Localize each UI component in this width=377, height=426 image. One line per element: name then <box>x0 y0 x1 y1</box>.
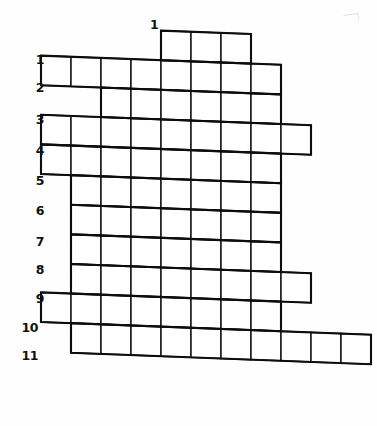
row-label-6: 6 <box>18 205 44 218</box>
grid-cell[interactable] <box>191 209 221 240</box>
row-label-5: 5 <box>18 175 44 188</box>
row-label-7: 7 <box>18 236 44 249</box>
crossword-grid[interactable] <box>0 0 377 426</box>
grid-cell[interactable] <box>191 269 221 300</box>
grid-cell[interactable] <box>221 181 251 212</box>
grid-cell[interactable] <box>191 61 221 92</box>
grid-cell[interactable] <box>41 144 71 175</box>
grid-cell[interactable] <box>251 64 281 95</box>
grid-cell[interactable] <box>131 266 161 297</box>
row-label-1: 1 <box>18 54 44 67</box>
grid-cell[interactable] <box>71 116 101 147</box>
row-label-8: 8 <box>18 264 44 277</box>
row-label-10: 10 <box>12 322 38 335</box>
grid-cell[interactable] <box>161 238 191 269</box>
grid-cell[interactable] <box>161 31 191 62</box>
grid-cell[interactable] <box>251 152 281 183</box>
grid-cell[interactable] <box>101 295 131 326</box>
grid-cell[interactable] <box>71 175 101 206</box>
grid-cell[interactable] <box>221 211 251 242</box>
grid-cell[interactable] <box>161 179 191 210</box>
grid-cell[interactable] <box>191 32 221 63</box>
grid-cell[interactable] <box>161 208 191 239</box>
grid-cell[interactable] <box>161 60 191 91</box>
grid-cell[interactable] <box>41 115 71 146</box>
grid-cell[interactable] <box>101 88 131 119</box>
grid-cell[interactable] <box>251 93 281 124</box>
grid-cell[interactable] <box>131 296 161 327</box>
column-label-1: 1 <box>150 19 159 32</box>
grid-cell[interactable] <box>221 122 251 153</box>
grid-cell[interactable] <box>221 92 251 123</box>
grid-cell[interactable] <box>131 177 161 208</box>
grid-cell[interactable] <box>71 146 101 177</box>
grid-cell[interactable] <box>131 207 161 238</box>
grid-cell[interactable] <box>101 265 131 296</box>
grid-cell[interactable] <box>281 124 311 155</box>
grid-cell[interactable] <box>221 299 251 330</box>
grid-cell[interactable] <box>101 324 131 355</box>
grid-cell[interactable] <box>221 151 251 182</box>
grid-cell[interactable] <box>251 271 281 302</box>
grid-cell[interactable] <box>71 205 101 236</box>
grid-cell[interactable] <box>251 241 281 272</box>
grid-cell[interactable] <box>71 234 101 265</box>
grid-cell[interactable] <box>41 56 71 87</box>
grid-cell[interactable] <box>251 212 281 243</box>
grid-cell[interactable] <box>221 270 251 301</box>
grid-cell[interactable] <box>251 182 281 213</box>
grid-cell[interactable] <box>191 298 221 329</box>
grid-cell[interactable] <box>101 117 131 148</box>
grid-cell[interactable] <box>131 59 161 90</box>
grid-cell[interactable] <box>131 148 161 179</box>
grid-cell[interactable] <box>41 292 71 323</box>
grid-cell[interactable] <box>101 236 131 267</box>
grid-cell[interactable] <box>101 58 131 89</box>
grid-cell[interactable] <box>221 329 251 360</box>
row-label-2: 2 <box>18 82 44 95</box>
grid-cell[interactable] <box>161 327 191 358</box>
row-label-3: 3 <box>18 114 44 127</box>
grid-cell[interactable] <box>71 323 101 354</box>
grid-cell[interactable] <box>161 297 191 328</box>
grid-cell[interactable] <box>101 206 131 237</box>
grid-cell[interactable] <box>131 118 161 149</box>
grid-cells-layer <box>41 31 371 365</box>
grid-cell[interactable] <box>131 89 161 120</box>
grid-cell[interactable] <box>191 328 221 359</box>
grid-cell[interactable] <box>221 63 251 94</box>
crossword-puzzle: 1234567891011 1 <box>0 0 377 426</box>
grid-cell[interactable] <box>101 176 131 207</box>
grid-cell[interactable] <box>131 325 161 356</box>
grid-cell[interactable] <box>71 294 101 325</box>
grid-cell[interactable] <box>191 239 221 270</box>
grid-cell[interactable] <box>131 237 161 268</box>
grid-cell[interactable] <box>191 121 221 152</box>
grid-cell[interactable] <box>281 331 311 362</box>
grid-cell[interactable] <box>251 123 281 154</box>
grid-cell[interactable] <box>251 300 281 331</box>
grid-cell[interactable] <box>161 90 191 121</box>
grid-cell[interactable] <box>161 119 191 150</box>
row-label-4: 4 <box>18 145 44 158</box>
grid-cell[interactable] <box>71 264 101 295</box>
grid-cell[interactable] <box>281 272 311 303</box>
grid-cell[interactable] <box>71 57 101 88</box>
grid-cell[interactable] <box>191 180 221 211</box>
grid-cell[interactable] <box>161 267 191 298</box>
grid-cell[interactable] <box>101 147 131 178</box>
grid-cell[interactable] <box>251 330 281 361</box>
row-label-11: 11 <box>12 350 38 363</box>
row-label-9: 9 <box>18 293 44 306</box>
grid-cell[interactable] <box>221 33 251 64</box>
grid-cell[interactable] <box>161 149 191 180</box>
grid-cell[interactable] <box>221 240 251 271</box>
grid-cell[interactable] <box>311 332 341 363</box>
grid-cell[interactable] <box>191 150 221 181</box>
grid-cell[interactable] <box>341 334 371 365</box>
grid-cell[interactable] <box>191 91 221 122</box>
